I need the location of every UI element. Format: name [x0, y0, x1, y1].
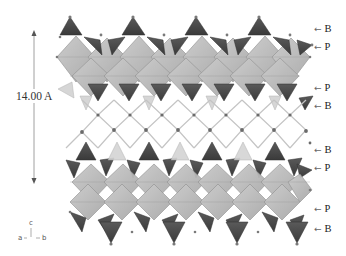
axis-label-c: c — [29, 219, 33, 227]
arrow-left-icon: ← — [314, 145, 322, 155]
layer-label-p: ←P — [314, 204, 330, 215]
middle-framework — [66, 100, 306, 148]
layer-label-p: ←P — [314, 83, 330, 94]
axis-label-a: a — [18, 234, 22, 242]
axis-label-b: b — [42, 234, 46, 242]
layer-label-b: ←B — [314, 24, 332, 35]
arrow-left-icon: ← — [314, 42, 322, 52]
arrow-left-icon: ← — [314, 83, 322, 93]
arrow-left-icon: ← — [314, 101, 322, 111]
layer-label-b: ←B — [314, 101, 332, 112]
arrow-left-icon: ← — [314, 163, 322, 173]
crystal-structure-figure — [0, 0, 346, 256]
dimension-arrow — [32, 30, 37, 184]
layer-label-p: ←P — [314, 42, 330, 53]
axis-indicator — [24, 228, 40, 238]
arrow-left-icon: ← — [314, 204, 322, 214]
dimension-label: 14.00 A — [16, 89, 52, 103]
top-layer — [56, 15, 314, 110]
layer-label-b: ←B — [314, 224, 332, 235]
arrow-left-icon: ← — [314, 24, 322, 34]
arrow-left-icon: ← — [314, 224, 322, 234]
middle-atoms — [80, 113, 311, 144]
bottom-layer — [66, 142, 312, 246]
layer-label-b: ←B — [314, 145, 332, 156]
layer-label-p: ←P — [314, 163, 330, 174]
